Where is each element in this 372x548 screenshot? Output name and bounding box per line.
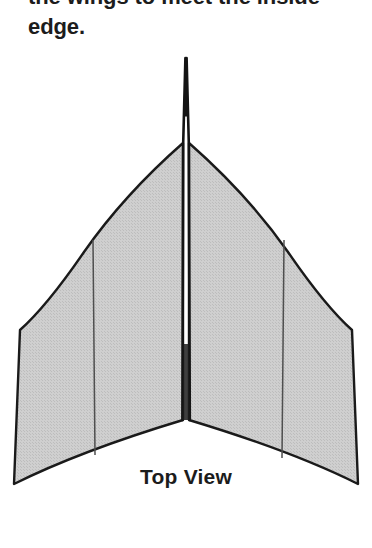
page-root: the wings to meet the inside edge. (0, 0, 372, 548)
instruction-line-clipped: the wings to meet the inside (0, 0, 348, 12)
left-wing-shape (14, 143, 183, 484)
instruction-line-visible: edge. (0, 12, 372, 42)
paper-airplane-diagram-icon (0, 44, 372, 494)
right-wing-shape (189, 143, 358, 484)
figure-caption: Top View (0, 465, 372, 489)
instruction-line-clipped-wrapper: the wings to meet the inside (0, 0, 372, 12)
instruction-line-visible-wrapper: edge. (0, 12, 372, 42)
paper-airplane-top-view-figure (0, 44, 372, 494)
keel-tail-shadow (182, 344, 189, 420)
